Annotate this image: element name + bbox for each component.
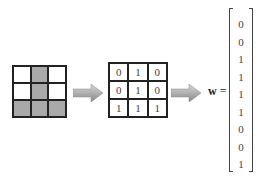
vector-equation-label: w = xyxy=(208,84,226,99)
vector-entry: 0 xyxy=(238,139,244,157)
matrix-cell: 1 xyxy=(128,63,147,81)
right-arrow-icon xyxy=(171,84,201,102)
matrix-cell: 1 xyxy=(128,99,147,117)
vector-entry: 1 xyxy=(238,51,244,69)
vector-entry: 1 xyxy=(238,86,244,104)
vector-entry: 0 xyxy=(238,121,244,139)
vector-symbol: w xyxy=(208,84,217,98)
pixel-cell xyxy=(48,83,66,100)
matrix-cell: 1 xyxy=(128,81,147,99)
pixel-cell xyxy=(48,66,66,83)
vector-entry: 0 xyxy=(238,16,244,34)
column-vector: 0 0 1 1 1 1 0 0 1 xyxy=(229,8,253,172)
matrix-cell: 0 xyxy=(148,63,167,81)
binary-matrix: 0 1 0 0 1 0 1 1 1 xyxy=(108,62,168,118)
matrix-cell: 0 xyxy=(148,81,167,99)
vector-entry: 1 xyxy=(238,104,244,122)
pixel-cell xyxy=(31,66,49,83)
pixel-cell xyxy=(31,83,49,100)
vector-entry: 1 xyxy=(238,156,244,174)
pixel-grid-image xyxy=(12,65,67,118)
vector-values: 0 0 1 1 1 1 0 0 1 xyxy=(229,16,253,174)
matrix-cell: 0 xyxy=(109,81,128,99)
matrix-cell: 1 xyxy=(148,99,167,117)
matrix-cell: 1 xyxy=(109,99,128,117)
vector-entry: 1 xyxy=(238,69,244,87)
equals-sign: = xyxy=(220,84,227,98)
vector-entry: 0 xyxy=(238,34,244,52)
pixel-cell xyxy=(13,100,31,117)
pixel-cell xyxy=(13,83,31,100)
pixel-cell xyxy=(31,100,49,117)
matrix-cell: 0 xyxy=(109,63,128,81)
right-arrow-icon xyxy=(73,84,103,102)
pixel-cell xyxy=(48,100,66,117)
pixel-cell xyxy=(13,66,31,83)
